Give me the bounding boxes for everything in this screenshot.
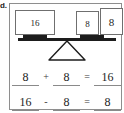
equation-2-term-2[interactable]: 8 — [53, 94, 80, 111]
equation-2-result[interactable]: 8 — [94, 94, 121, 111]
equation-row-addition: 8 + 8 = 16 — [10, 61, 123, 86]
equation-area: 8 + 8 = 16 16 - 8 = 8 — [10, 61, 123, 111]
weight-card-right-inner-8: 8 — [76, 11, 99, 35]
worksheet-problem-d: d. 16 8 8 8 + — [0, 0, 124, 113]
weight-card-right-outer-8: 8 — [100, 8, 123, 35]
problem-frame: 16 8 8 8 + 8 = 16 — [9, 3, 122, 110]
balance-scale-diagram: 16 8 8 — [10, 4, 123, 61]
equation-2-operator-equals: = — [80, 94, 94, 111]
equation-1-term-1[interactable]: 8 — [12, 69, 39, 86]
weight-card-right-outer-value: 8 — [101, 9, 122, 36]
equation-1-result[interactable]: 16 — [94, 69, 121, 86]
equation-1-term-2[interactable]: 8 — [53, 69, 80, 86]
weight-card-left-16: 16 — [15, 10, 55, 35]
triangle-fulcrum-icon — [48, 40, 86, 61]
equation-2-term-1[interactable]: 16 — [12, 94, 39, 111]
equation-row-subtraction: 16 - 8 = 8 — [10, 86, 123, 111]
equation-1-operator-equals: = — [80, 69, 94, 86]
item-letter-label: d. — [0, 0, 9, 11]
equation-1-operator-plus: + — [39, 69, 53, 86]
weight-card-right-inner-value: 8 — [77, 12, 98, 36]
weight-card-left-value: 16 — [16, 11, 54, 36]
equation-2-operator-minus: - — [39, 94, 53, 111]
